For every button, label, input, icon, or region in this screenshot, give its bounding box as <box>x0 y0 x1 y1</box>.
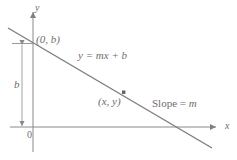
b-measurement-label: b <box>14 79 20 90</box>
origin-label: 0 <box>27 130 32 140</box>
slope-label: Slope = m <box>152 98 197 109</box>
point-coordinates-label: (x, y) <box>98 96 121 107</box>
graph-canvas <box>0 0 237 160</box>
point-marker-xy <box>122 91 125 94</box>
slope-label-value: m <box>189 97 197 109</box>
x-axis-label: x <box>225 121 229 131</box>
y-intercept-label: (0, b) <box>36 34 60 45</box>
slope-intercept-figure: y x 0 (0, b) y = mx + b (x, y) Slope = m… <box>0 0 237 160</box>
line-equation-label: y = mx + b <box>78 50 127 61</box>
slope-label-text: Slope = <box>152 97 189 109</box>
line-y-equals-mx-plus-b <box>8 28 212 148</box>
y-axis-label: y <box>35 3 39 13</box>
